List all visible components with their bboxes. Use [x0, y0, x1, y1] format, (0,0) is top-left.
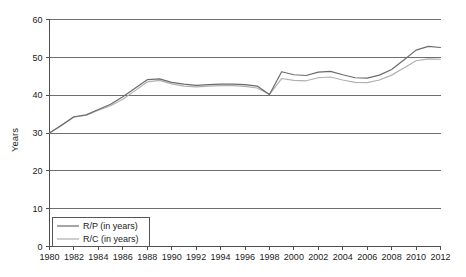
x-tick-label-1994: 1994 [211, 252, 231, 262]
x-tick-label-1982: 1982 [64, 252, 84, 262]
x-tick-labels: 1980198219841986198819901992199419961998… [39, 252, 450, 262]
y-tick-label-10: 10 [32, 204, 42, 214]
chart-figure: 0102030405060 19801982198419861988199019… [0, 0, 466, 277]
y-tick-labels: 0102030405060 [32, 15, 42, 252]
series-line-rc [50, 59, 441, 133]
y-axis-title-text: Years [9, 128, 20, 152]
x-tick-label-2002: 2002 [308, 252, 328, 262]
x-tick-label-2008: 2008 [382, 252, 402, 262]
x-tick-label-1986: 1986 [113, 252, 133, 262]
y-tick-label-60: 60 [32, 15, 42, 25]
x-tick-label-2010: 2010 [406, 252, 426, 262]
y-tick-label-30: 30 [32, 128, 42, 138]
y-tick-label-20: 20 [32, 166, 42, 176]
x-tick-label-2004: 2004 [333, 252, 353, 262]
legend-label-rp: R/P (in years) [83, 221, 138, 231]
x-axis [50, 247, 441, 251]
x-tick-label-2012: 2012 [430, 252, 450, 262]
y-tick-label-50: 50 [32, 53, 42, 63]
series-line-rp [50, 46, 441, 133]
x-tick-label-1998: 1998 [259, 252, 279, 262]
x-tick-label-1996: 1996 [235, 252, 255, 262]
legend-label-rc: R/C (in years) [83, 234, 139, 244]
x-tick-label-1988: 1988 [137, 252, 157, 262]
x-tick-label-1992: 1992 [186, 252, 206, 262]
x-tick-label-1980: 1980 [39, 252, 59, 262]
y-axis-title: Years [9, 128, 20, 152]
data-series [50, 46, 441, 133]
x-tick-label-1990: 1990 [162, 252, 182, 262]
y-tick-label-40: 40 [32, 90, 42, 100]
x-tick-label-2006: 2006 [357, 252, 377, 262]
chart-legend: R/P (in years)R/C (in years) [52, 217, 149, 246]
x-tick-label-1984: 1984 [88, 252, 108, 262]
x-tick-label-2000: 2000 [284, 252, 304, 262]
gridlines [50, 20, 441, 247]
line-chart: 0102030405060 19801982198419861988199019… [0, 0, 466, 277]
y-tick-label-0: 0 [37, 242, 42, 252]
